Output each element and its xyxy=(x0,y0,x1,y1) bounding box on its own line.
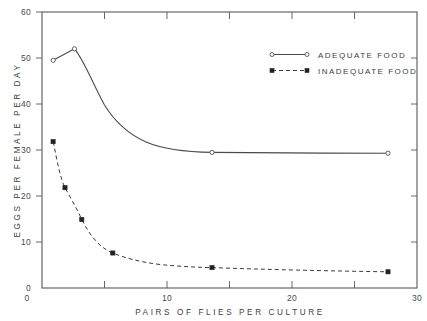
legend-marker xyxy=(305,53,309,57)
data-point xyxy=(51,140,55,144)
series-inadequate-food-markers xyxy=(51,140,390,274)
x-axis-ticks xyxy=(105,281,355,288)
x-tick-label: 20 xyxy=(287,293,297,303)
legend-marker xyxy=(270,69,274,73)
legend: ADEQUATE FOOD INADEQUATE FOOD xyxy=(270,51,417,76)
y-axis-title: EGGS PER FEMALE PER DAY xyxy=(13,62,22,237)
data-point xyxy=(63,186,67,190)
x-tick-label: 10 xyxy=(162,293,172,303)
x-axis-ticks-top xyxy=(105,12,355,19)
y-axis-ticks-right xyxy=(411,58,417,242)
y-tick-label: 30 xyxy=(21,145,31,155)
data-point xyxy=(72,47,76,51)
data-point xyxy=(80,217,84,221)
data-point xyxy=(111,251,115,255)
y-tick-label: 20 xyxy=(21,191,31,201)
series-adequate-food-line xyxy=(53,49,388,153)
x-tick-label: 0 xyxy=(24,293,29,303)
x-axis-title: PAIRS OF FLIES PER CULTURE xyxy=(135,308,325,317)
y-tick-label: 40 xyxy=(21,99,31,109)
y-tick-labels: 0 10 20 30 40 50 60 xyxy=(21,7,31,293)
data-point xyxy=(210,266,214,270)
series-inadequate-food-line xyxy=(53,142,388,272)
y-tick-label: 60 xyxy=(21,7,31,17)
x-tick-label: 30 xyxy=(412,293,422,303)
legend-marker xyxy=(270,53,274,57)
y-tick-label: 50 xyxy=(21,53,31,63)
data-point xyxy=(51,58,55,62)
data-point xyxy=(386,151,390,155)
data-point xyxy=(386,270,390,274)
chart-canvas: 0 10 20 30 40 50 60 0 10 20 30 PAIRS OF … xyxy=(0,0,427,321)
figure-container: 0 10 20 30 40 50 60 0 10 20 30 PAIRS OF … xyxy=(0,0,427,321)
y-axis-ticks xyxy=(36,12,42,242)
legend-marker xyxy=(305,69,309,73)
data-point xyxy=(210,150,214,154)
y-tick-label: 0 xyxy=(26,283,31,293)
legend-label-adequate-food: ADEQUATE FOOD xyxy=(318,51,406,60)
legend-entry-inadequate-food: INADEQUATE FOOD xyxy=(270,67,417,76)
x-tick-labels: 0 10 20 30 xyxy=(24,293,422,303)
legend-entry-adequate-food: ADEQUATE FOOD xyxy=(270,51,406,60)
y-tick-label: 10 xyxy=(21,237,31,247)
legend-label-inadequate-food: INADEQUATE FOOD xyxy=(318,67,417,76)
